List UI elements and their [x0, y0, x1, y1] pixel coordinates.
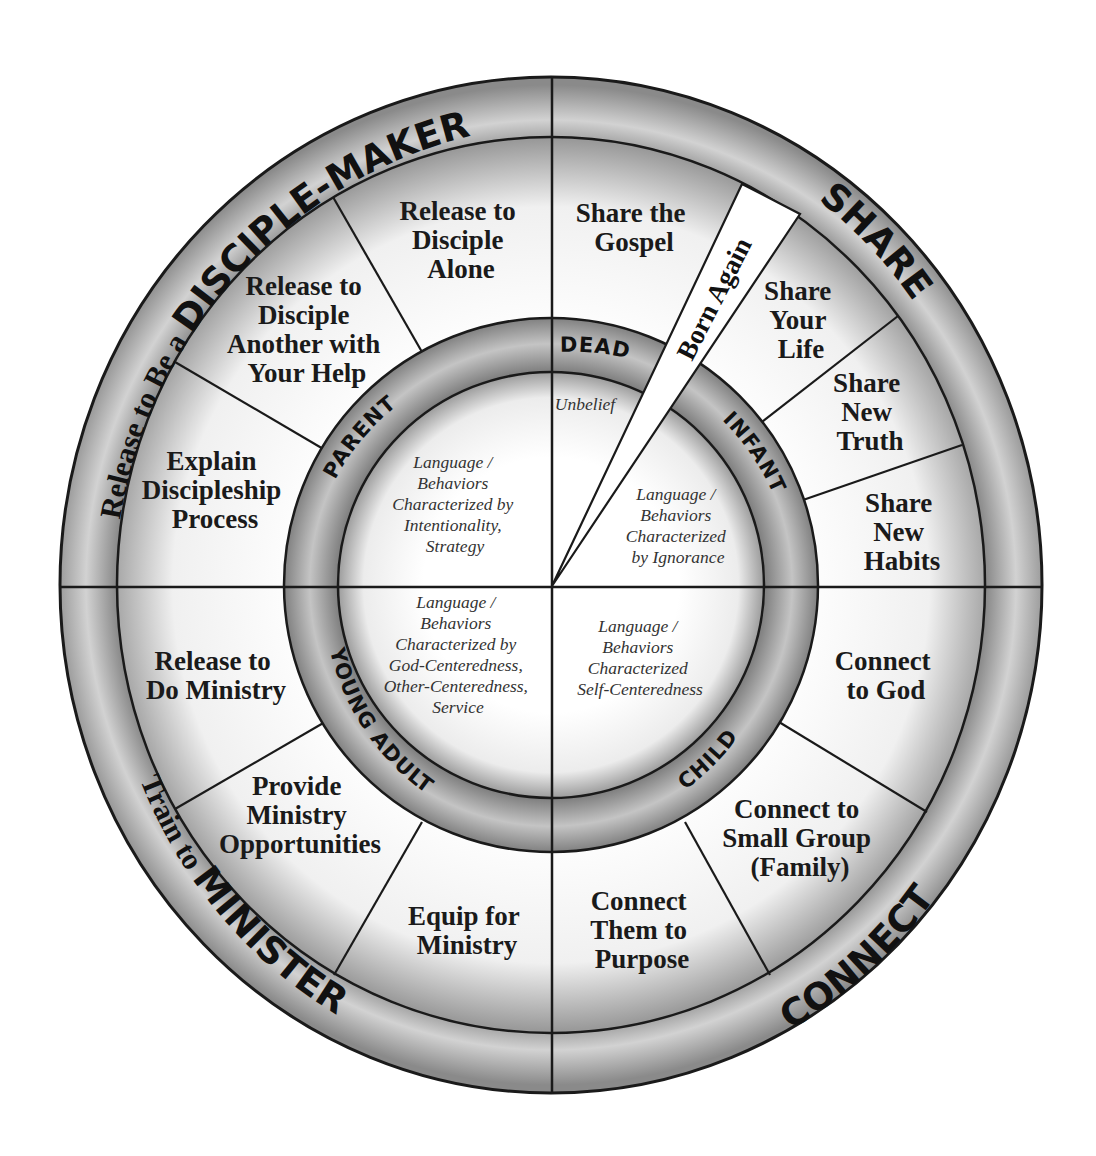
segment-release-ministry: Release to Do Ministry: [146, 646, 287, 705]
core-unbelief: Unbelief: [555, 394, 617, 414]
discipleship-wheel: Born Again Release to Be a DISCIPLE-MAKE…: [0, 0, 1096, 1156]
segment-equip-ministry: Equip for Ministry: [408, 901, 526, 960]
core-infant: Language / Behaviors Characterized by Ig…: [626, 484, 731, 567]
segment-connect-purpose: Connect Them to Purpose: [590, 886, 694, 974]
segment-release-with-help: Release to Disciple Another with Your He…: [227, 271, 387, 388]
segment-share-truth: Share New Truth: [833, 368, 907, 456]
segment-connect-god: Connect to God: [835, 646, 938, 705]
segment-share-habits: Share New Habits: [864, 488, 941, 576]
